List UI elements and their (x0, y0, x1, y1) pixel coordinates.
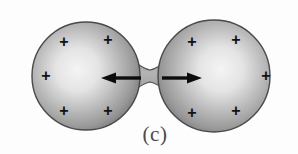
fission-figure-panel: + + + + + + + + + + (c) (0, 0, 298, 154)
plus-charge-icon: + (41, 68, 50, 84)
plus-charge-icon: + (59, 103, 68, 119)
right-fragment-sphere (158, 20, 270, 132)
plus-charge-icon: + (261, 68, 270, 84)
plus-charge-icon: + (187, 34, 196, 50)
panel-label: (c) (143, 124, 168, 145)
plus-charge-icon: + (231, 32, 240, 48)
plus-charge-icon: + (231, 103, 240, 119)
plus-charge-icon: + (103, 32, 112, 48)
plus-charge-icon: + (187, 105, 196, 121)
plus-charge-icon: + (59, 34, 68, 50)
plus-charge-icon: + (103, 103, 112, 119)
